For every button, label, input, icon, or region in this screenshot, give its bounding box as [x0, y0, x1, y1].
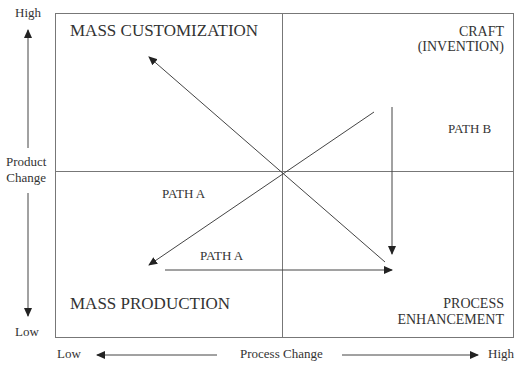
path-a-lower-label: PATH A [200, 248, 243, 264]
y-axis-low-label: Low [15, 324, 39, 340]
y-axis-label: Product Change [6, 154, 46, 186]
quadrant-process-enhancement: PROCESS ENHANCEMENT [397, 296, 504, 328]
quadrant-process-line2: ENHANCEMENT [397, 312, 504, 328]
x-axis-label: Process Change [240, 346, 323, 362]
y-axis-label-line2: Change [6, 170, 46, 186]
path-a-upper-label: PATH A [162, 186, 205, 202]
quadrant-craft-line2: (INVENTION) [418, 39, 504, 54]
quadrant-mass-customization: MASS CUSTOMIZATION [70, 21, 258, 41]
y-axis-high-label: High [15, 5, 41, 21]
quadrant-craft: CRAFT (INVENTION) [418, 24, 504, 54]
quadrant-process-line1: PROCESS [397, 296, 504, 312]
quadrant-craft-line1: CRAFT [418, 24, 504, 39]
arrow-to-mass-customization [149, 57, 385, 262]
x-axis-low-label: Low [57, 346, 81, 362]
frame [55, 13, 514, 338]
x-axis-high-label: High [488, 346, 514, 362]
quadrant-mass-production: MASS PRODUCTION [70, 294, 230, 314]
y-axis-label-line1: Product [6, 154, 46, 170]
path-b-label: PATH B [448, 121, 491, 137]
